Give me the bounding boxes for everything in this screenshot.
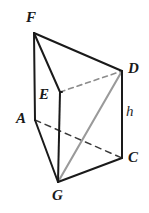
dimension-label-h: h xyxy=(126,104,134,119)
vertex-label-E: E xyxy=(39,87,49,102)
edge-A-G xyxy=(35,120,58,182)
vertex-label-A: A xyxy=(16,111,26,126)
edge-E-G xyxy=(58,92,60,182)
edge-F-A xyxy=(34,33,35,120)
vertex-label-C: C xyxy=(128,150,138,165)
edge-G-C xyxy=(58,158,122,182)
edge-A-C xyxy=(35,120,122,158)
vertex-label-G: G xyxy=(52,188,63,203)
geometry-figure: F D E A C G h xyxy=(0,0,149,213)
vertex-label-F: F xyxy=(26,10,36,25)
diagonal-G-D xyxy=(58,71,122,182)
vertex-label-D: D xyxy=(128,61,139,76)
